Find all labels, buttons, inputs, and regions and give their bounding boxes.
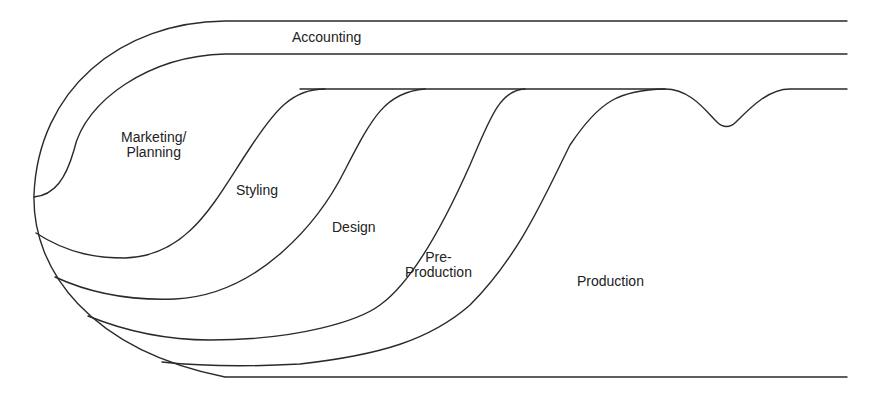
label-pre-production: Pre- Production [405,250,472,280]
marketing-styling-boundary [36,89,325,258]
label-design-text: Design [332,219,376,235]
label-accounting: Accounting [292,30,361,45]
label-marketing-line1: Marketing/ [121,129,186,145]
accounting-lower-boundary [34,54,847,197]
design-preproduction-boundary [88,89,525,340]
label-production: Production [577,274,644,289]
label-marketing-planning: Marketing/ Planning [121,130,186,160]
label-preproduction-line1: Pre- [425,249,451,265]
preproduction-production-boundary [162,89,665,366]
label-accounting-text: Accounting [292,29,361,45]
label-marketing-line2: Planning [126,144,181,160]
outer-envelope-curve [34,21,847,377]
label-design: Design [332,220,376,235]
process-flow-diagram [0,0,875,393]
label-styling: Styling [236,183,278,198]
label-styling-text: Styling [236,182,278,198]
top-boundary-with-dip [300,89,847,127]
label-production-text: Production [577,273,644,289]
label-preproduction-line2: Production [405,264,472,280]
